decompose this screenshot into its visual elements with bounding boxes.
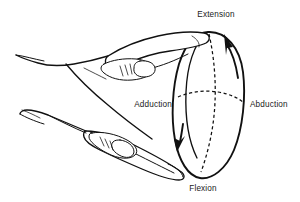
label-adduction: Adduction — [134, 100, 172, 109]
figure-root: Extension Abduction Adduction Flexion — [0, 0, 300, 202]
wrist-motion-diagram: Extension Abduction Adduction Flexion — [0, 0, 300, 202]
label-extension: Extension — [197, 10, 235, 19]
index-fingernail — [134, 61, 155, 77]
label-flexion: Flexion — [189, 184, 217, 193]
label-abduction: Abduction — [250, 100, 288, 109]
